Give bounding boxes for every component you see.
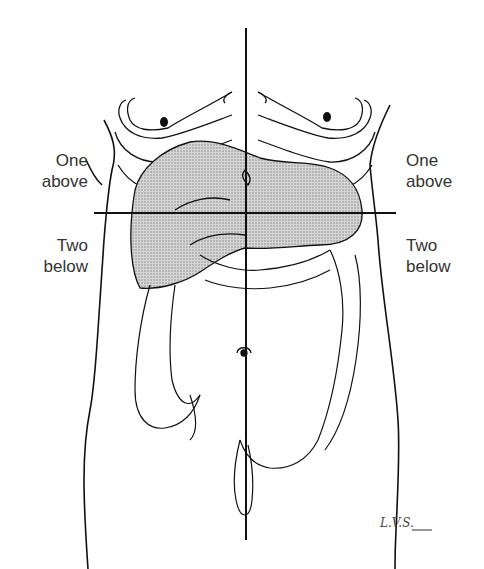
artist-signature: L.V.S. bbox=[380, 516, 414, 530]
label-right-upper: One above bbox=[406, 150, 476, 192]
label-left-lower-line2: below bbox=[28, 256, 88, 277]
abdominal-quadrant-diagram: One above Two below One above Two below … bbox=[0, 0, 484, 569]
label-left-lower-line1: Two bbox=[28, 235, 88, 256]
colon bbox=[135, 250, 360, 515]
label-right-upper-line1: One bbox=[406, 150, 476, 171]
label-left-lower: Two below bbox=[28, 235, 88, 277]
label-left-upper: One above bbox=[28, 150, 88, 192]
label-right-lower: Two below bbox=[406, 235, 476, 277]
label-right-upper-line2: above bbox=[406, 171, 476, 192]
navel bbox=[237, 348, 251, 356]
label-left-upper-line1: One bbox=[28, 150, 88, 171]
label-right-lower-line1: Two bbox=[406, 235, 476, 256]
label-left-upper-line2: above bbox=[28, 171, 88, 192]
label-right-lower-line2: below bbox=[406, 256, 476, 277]
anatomy-illustration bbox=[0, 0, 484, 569]
